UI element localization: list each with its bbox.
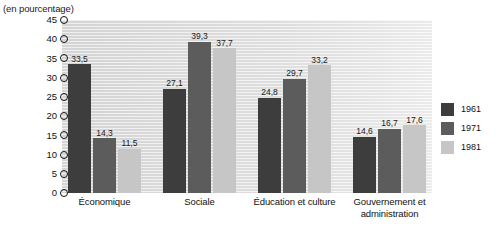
category-axis-labels: ÉconomiqueSocialeÉducation et cultureGou… bbox=[62, 196, 432, 230]
bar-group: 14,616,717,6 bbox=[353, 20, 426, 193]
grouped-bar-chart: (en pourcentage) 454035302520151050 33,5… bbox=[0, 0, 502, 232]
bar-1961-1[interactable]: 33,5 bbox=[68, 64, 91, 193]
bar-1981-3[interactable]: 33,2 bbox=[308, 65, 331, 193]
y-axis-tick-label: 40 bbox=[46, 34, 57, 44]
legend-item-1971[interactable]: 1971 bbox=[441, 119, 501, 138]
bar-value-label: 14,6 bbox=[356, 127, 373, 136]
legend-label: 1981 bbox=[461, 143, 481, 152]
bar-1981-4[interactable]: 17,6 bbox=[403, 125, 426, 193]
bar-1961-4[interactable]: 14,6 bbox=[353, 137, 376, 193]
category-label: Gouvernement et administration bbox=[331, 196, 449, 219]
bar-value-label: 27,1 bbox=[166, 79, 183, 88]
bar-value-label: 33,5 bbox=[71, 55, 88, 64]
y-axis-tick-label: 30 bbox=[46, 73, 57, 83]
y-axis-tick-label: 20 bbox=[46, 111, 57, 121]
legend-label: 1971 bbox=[461, 124, 481, 133]
bar-1971-3[interactable]: 29,7 bbox=[283, 79, 306, 193]
bar-value-label: 17,6 bbox=[406, 116, 423, 125]
bar-1981-2[interactable]: 37,7 bbox=[213, 48, 236, 193]
legend-swatch-icon bbox=[441, 122, 454, 135]
y-axis-tick-label: 5 bbox=[52, 169, 57, 179]
bar-1971-1[interactable]: 14,3 bbox=[93, 138, 116, 193]
bar-value-label: 29,7 bbox=[286, 69, 303, 78]
legend-swatch-icon bbox=[441, 103, 454, 116]
bar-group: 24,829,733,2 bbox=[258, 20, 331, 193]
chart-legend: 196119711981 bbox=[441, 100, 501, 157]
bar-value-label: 37,7 bbox=[216, 39, 233, 48]
bar-group: 27,139,337,7 bbox=[163, 20, 236, 193]
y-axis-tick-label: 25 bbox=[46, 92, 57, 102]
bar-1961-3[interactable]: 24,8 bbox=[258, 98, 281, 193]
bar-value-label: 24,8 bbox=[261, 88, 278, 97]
bars-layer: 33,514,311,527,139,337,724,829,733,214,6… bbox=[62, 20, 432, 193]
bar-value-label: 33,2 bbox=[311, 56, 328, 65]
y-axis-tick-label: 35 bbox=[46, 54, 57, 64]
bar-1981-1[interactable]: 11,5 bbox=[118, 149, 141, 193]
legend-swatch-icon bbox=[441, 141, 454, 154]
legend-item-1981[interactable]: 1981 bbox=[441, 138, 501, 157]
bar-1971-2[interactable]: 39,3 bbox=[188, 42, 211, 193]
bar-1961-2[interactable]: 27,1 bbox=[163, 89, 186, 193]
bar-group: 33,514,311,5 bbox=[68, 20, 141, 193]
bar-value-label: 16,7 bbox=[381, 119, 398, 128]
legend-label: 1961 bbox=[461, 105, 481, 114]
bar-value-label: 14,3 bbox=[96, 129, 113, 138]
bar-value-label: 39,3 bbox=[191, 32, 208, 41]
bar-value-label: 11,5 bbox=[122, 139, 138, 148]
y-axis-tick-label: 10 bbox=[46, 150, 57, 160]
legend-item-1961[interactable]: 1961 bbox=[441, 100, 501, 119]
y-axis-tick-label: 45 bbox=[46, 15, 57, 25]
y-axis-tick-label: 15 bbox=[46, 131, 57, 141]
axis-unit-title: (en pourcentage) bbox=[3, 3, 74, 14]
bar-1971-4[interactable]: 16,7 bbox=[378, 129, 401, 193]
